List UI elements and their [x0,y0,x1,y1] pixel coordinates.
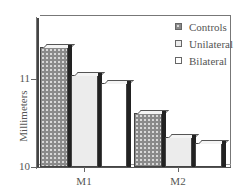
bar-bilateral-m1 [101,83,127,167]
bar-bilateral-m2 [195,143,222,167]
legend: Controls Unilateral Bilateral [175,18,233,69]
bar-unilateral-m2 [165,137,192,167]
bar-controls-m1 [40,47,68,167]
y-tick-11 [31,79,37,80]
y-axis-label: Millimeters [17,81,29,151]
x-label-m1: M1 [69,175,99,187]
legend-item-unilateral: Unilateral [175,35,233,52]
unilateral-swatch-icon [175,40,182,47]
legend-item-controls: Controls [175,18,233,35]
bar-unilateral-m1 [71,75,98,167]
legend-label: Controls [189,21,227,33]
x-tick-m2 [178,167,179,172]
y-tick-10 [31,167,37,168]
y-axis [37,18,39,168]
bilateral-swatch-icon [175,57,182,64]
legend-label: Bilateral [189,55,227,67]
y-tick-label-10: 10 [10,160,30,172]
legend-item-bilateral: Bilateral [175,52,233,69]
x-axis [37,167,231,168]
bar-controls-m2 [134,113,162,167]
x-label-m2: M2 [163,175,193,187]
x-tick-m1 [84,167,85,172]
controls-swatch-icon [175,23,182,30]
legend-label: Unilateral [189,38,233,50]
